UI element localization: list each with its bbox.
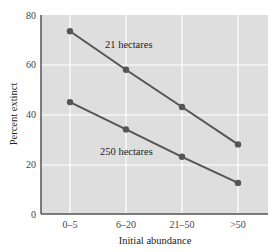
series-label-250-hectares: 250 hectares [100,146,153,157]
x-tick-21-50: 21–50 [170,219,195,230]
y-axis-title: Percent extinct [8,83,19,146]
x-axis-title: Initial abundance [119,235,192,246]
data-point-marker [179,104,185,110]
y-tick-60: 60 [26,59,36,70]
data-point-marker [67,99,73,105]
data-point-marker [67,28,73,34]
y-tick-20: 20 [26,159,36,170]
x-tick-0-5: 0–5 [63,219,78,230]
y-tick-40: 40 [26,109,36,120]
data-point-marker [123,126,129,132]
data-point-marker [179,154,185,160]
y-tick-80: 80 [26,10,36,21]
line-chart: 0 20 40 60 80 0–5 6–20 21–50 >50 Initial… [0,0,274,252]
y-tick-0: 0 [31,209,36,220]
data-point-marker [235,141,241,147]
x-tick-labels: 0–5 6–20 21–50 >50 [63,219,246,230]
y-tick-labels: 0 20 40 60 80 [26,10,36,220]
data-point-marker [235,180,241,186]
x-tick-6-20: 6–20 [116,219,136,230]
data-point-marker [123,67,129,73]
series-label-21-hectares: 21 hectares [105,39,153,50]
x-tick-gt50: >50 [230,219,246,230]
